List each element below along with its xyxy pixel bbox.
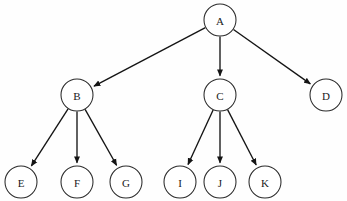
graph-node-e[interactable]: E <box>5 166 37 198</box>
graph-node-label-i: I <box>178 177 182 189</box>
graph-node-label-k: K <box>261 177 269 189</box>
graph-node-f[interactable]: F <box>61 166 93 198</box>
graph-node-label-e: E <box>18 177 25 189</box>
graph-node-label-d: D <box>322 90 330 102</box>
tree-diagram: ABCDEFGIJK <box>0 0 347 201</box>
graph-edge-b-g <box>85 109 116 165</box>
graph-edge-b-e <box>31 109 68 166</box>
graph-node-b[interactable]: B <box>61 79 93 111</box>
graph-edge-c-i <box>188 110 213 165</box>
graph-node-label-f: F <box>74 177 80 189</box>
graph-node-g[interactable]: G <box>110 166 142 198</box>
graph-node-label-a: A <box>216 15 224 27</box>
graph-node-a[interactable]: A <box>204 4 236 36</box>
graph-node-label-c: C <box>216 90 223 102</box>
graph-node-i[interactable]: I <box>164 166 196 198</box>
graph-edge-c-k <box>228 110 257 165</box>
graph-node-c[interactable]: C <box>204 79 236 111</box>
graph-node-label-b: B <box>73 90 80 102</box>
graph-node-k[interactable]: K <box>249 166 281 198</box>
graph-node-d[interactable]: D <box>310 79 342 111</box>
nodes-layer: ABCDEFGIJK <box>5 4 342 198</box>
tree-diagram-canvas: ABCDEFGIJK <box>0 0 347 201</box>
graph-edge-a-b <box>94 28 205 86</box>
graph-node-label-g: G <box>122 177 130 189</box>
graph-node-j[interactable]: J <box>204 166 236 198</box>
graph-edge-a-d <box>233 30 310 84</box>
graph-node-label-j: J <box>218 177 223 189</box>
